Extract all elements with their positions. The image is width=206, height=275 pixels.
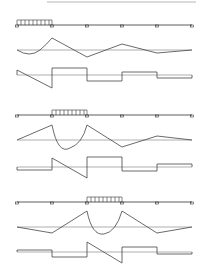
moment-diagram-3 xyxy=(17,211,192,234)
case-3 xyxy=(16,197,194,263)
distributed-load-3 xyxy=(87,197,122,202)
beam-1 xyxy=(16,20,194,27)
shear-diagram-3 xyxy=(17,242,192,263)
shear-diagram-1 xyxy=(17,68,192,88)
case-1 xyxy=(16,20,194,88)
figure xyxy=(0,0,206,275)
beam-3 xyxy=(16,197,194,204)
distributed-load-1 xyxy=(17,20,52,25)
distributed-load-2 xyxy=(52,110,87,115)
moment-diagram-2 xyxy=(17,125,192,149)
case-2 xyxy=(16,110,194,178)
beam-diagrams-svg xyxy=(0,0,206,275)
moment-diagram-1 xyxy=(17,38,192,57)
beam-2 xyxy=(16,110,194,117)
shear-diagram-2 xyxy=(17,157,192,178)
